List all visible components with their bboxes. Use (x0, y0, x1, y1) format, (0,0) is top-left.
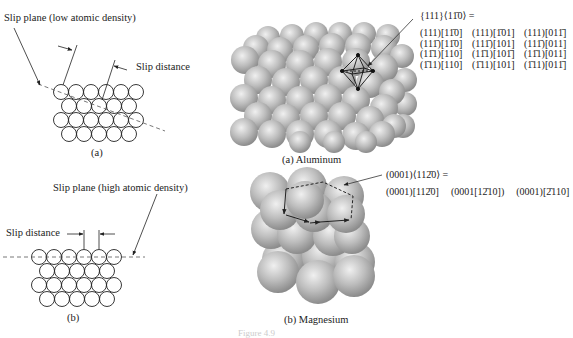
magnesium-caption: (b) Magnesium (284, 315, 348, 326)
aluminum-slip-systems-table: (111)[11̄0] (111)[1̄01] (111)[011̄] (111… (420, 28, 573, 70)
slip-system-row: (1̄11)[110] (1̄11)[101] (1̄11)[011̄] (420, 60, 573, 71)
slip-system: (0001)[112̄0] (386, 186, 439, 197)
panel-b-slip-plane-arrow (133, 194, 157, 255)
panel-a-slip-distance-label: Slip distance (136, 62, 190, 73)
magnesium-slip-systems: (0001)[112̄0] (0001[12̄10]) (0001)[2̄110… (386, 186, 573, 197)
figure-label: Figure 4.9 (238, 328, 275, 338)
panel-a-extension-line-1 (63, 45, 77, 85)
slip-system: (111)[011̄] (524, 28, 573, 39)
slip-system-row: (111)[11̄0] (111)[1̄01] (111)[011̄] (420, 28, 573, 39)
slip-system: (1̄11)[101] (472, 60, 524, 71)
panel-b-slip-distance-label: Slip distance (6, 228, 60, 239)
panel-a-slip-plane-label: Slip plane (low atomic density) (4, 13, 136, 24)
slip-system: (0001)[2̄110] (516, 186, 569, 197)
panel-b-atoms (32, 250, 122, 307)
slip-system-row: (11̄1)[110] (11̄1)[101̄] (11̄1)[011] (420, 49, 573, 60)
panel-a-atoms (54, 85, 144, 142)
slip-system: (111)[1̄01] (472, 28, 524, 39)
aluminum-slip-family: {111}⟨11̄0⟩ = (420, 11, 474, 21)
slip-system: (11̄1)[110] (420, 49, 472, 60)
magnesium-slip-family: (0001)⟨112̄0⟩ = (386, 170, 448, 180)
panel-a-caption: (a) (91, 148, 103, 159)
panel-b-caption: (b) (67, 313, 79, 324)
slip-system: (0001[12̄10]) (451, 186, 504, 197)
slip-system: (11̄1)[101̄] (472, 49, 524, 60)
panel-a-slip-plane-line (38, 84, 165, 131)
panel-b-slip-plane-label: Slip plane (high atomic density) (53, 183, 188, 194)
magnesium-crystal (250, 167, 375, 304)
panel-a-dim-arrow-2 (114, 66, 127, 70)
slip-system: (111)[11̄0] (420, 28, 472, 39)
aluminum-caption: (a) Aluminum (282, 155, 341, 166)
aluminum-crystal (230, 22, 417, 153)
slip-system: (11̄1)[011] (524, 49, 573, 60)
slip-system: (1̄11)[011̄] (524, 60, 573, 71)
slip-system: (1̄11)[110] (420, 60, 472, 71)
panel-a-slip-plane-arrow (14, 28, 40, 85)
panel-a-dim-arrow-1 (58, 46, 72, 50)
